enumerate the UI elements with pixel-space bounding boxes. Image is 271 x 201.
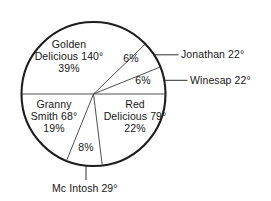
slice-label-golden-delicious-line1: Golden [20, 38, 118, 50]
slice-label-golden-delicious: Golden Delicious 140° 39% [20, 38, 118, 75]
slice-percent-jonathan: 6% [117, 52, 145, 64]
callout-label-mcintosh: Mc Intosh 29° [52, 182, 118, 194]
slice-label-red-delicious-line2: Delicious 79° [96, 110, 174, 122]
callout-label-jonathan: Jonathan 22° [181, 48, 244, 60]
slice-percent-winesap: 6% [129, 74, 157, 86]
slice-percent-golden-delicious: 39% [20, 62, 118, 74]
slice-label-granny-smith-line1: Granny [19, 98, 89, 110]
slice-label-red-delicious-line1: Red [96, 98, 174, 110]
slice-percent-red-delicious: 22% [96, 122, 174, 134]
slice-label-red-delicious: Red Delicious 79° 22% [96, 98, 174, 135]
slice-label-granny-smith-line2: Smith 68° [19, 110, 89, 122]
pie-chart: Golden Delicious 140° 39% 6% Jonathan 22… [0, 0, 271, 201]
slice-label-granny-smith: Granny Smith 68° 19% [19, 98, 89, 135]
slice-percent-granny-smith: 19% [19, 122, 89, 134]
slice-label-golden-delicious-line2: Delicious 140° [20, 50, 118, 62]
callout-label-winesap: Winesap 22° [190, 74, 251, 86]
slice-percent-mcintosh: 8% [70, 141, 102, 153]
